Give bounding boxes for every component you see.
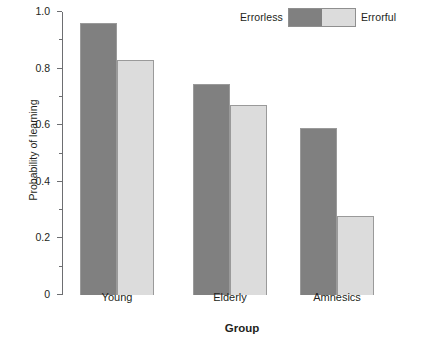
plot-area: 00.20.40.60.81.0	[62, 12, 422, 295]
bar-group	[300, 12, 374, 295]
y-tick-label: 1.0	[35, 5, 50, 17]
y-tick-label: 0.8	[35, 62, 50, 74]
x-tick-label-amnesics: Amnesics	[313, 291, 361, 303]
bar-elderly-errorful	[230, 105, 267, 295]
bar-amnesics-errorful	[337, 216, 374, 295]
x-tick-label-elderly: Elderly	[213, 291, 247, 303]
bar-young-errorful	[117, 60, 154, 295]
bar-young-errorless	[80, 23, 117, 295]
y-tick-label: 0.4	[35, 175, 50, 187]
bar-amnesics-errorless	[300, 128, 337, 295]
bar-elderly-errorless	[193, 84, 230, 295]
x-tick-label-young: Young	[102, 291, 133, 303]
x-axis-title: Group	[62, 322, 422, 334]
bar-series-container	[62, 12, 422, 295]
y-tick-label: 0	[44, 288, 50, 300]
bar-group	[193, 12, 267, 295]
y-axis-title: Probability of learning	[22, 0, 44, 300]
bar-chart: Errorless Errorful Probability of learni…	[0, 0, 432, 348]
y-tick-label: 0.2	[35, 231, 50, 243]
bar-group	[80, 12, 154, 295]
y-tick-label: 0.6	[35, 118, 50, 130]
